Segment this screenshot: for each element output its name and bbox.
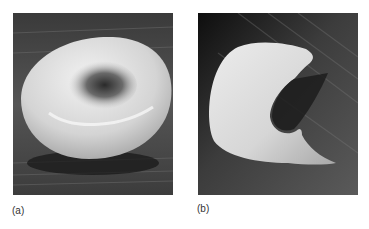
micrograph-sickle-rbc bbox=[198, 13, 358, 195]
rbc-central-pallor bbox=[65, 61, 137, 109]
micrograph-normal-rbc bbox=[13, 13, 173, 195]
panel-b-caption: (b) bbox=[197, 203, 209, 214]
normal-rbc-image bbox=[13, 13, 173, 195]
panel-a-caption: (a) bbox=[12, 205, 24, 216]
sickle-rbc-image bbox=[198, 13, 358, 195]
